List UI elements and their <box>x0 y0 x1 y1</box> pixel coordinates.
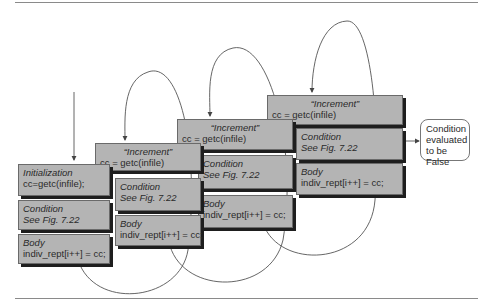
body-box-3: Body indiv_rept[i++] = cc; <box>198 195 293 228</box>
condition-ref: See Fig. 7.22 <box>203 169 288 180</box>
condition-ref: See Fig. 7.22 <box>23 214 105 225</box>
bottom-rule <box>15 298 478 299</box>
condition-box-3: Condition See Fig. 7.22 <box>198 155 293 189</box>
increment-title: “Increment” <box>272 98 398 109</box>
body-title: Body <box>120 218 196 229</box>
body-title: Body <box>301 166 398 177</box>
body-title: Body <box>203 198 288 209</box>
condition-box-2: Condition See Fig. 7.22 <box>115 178 201 211</box>
body-code: indiv_rept[i++] = cc; <box>203 209 288 220</box>
top-rule <box>15 2 478 3</box>
initialization-code: cc=getc(infile); <box>23 178 105 189</box>
condition-ref: See Fig. 7.22 <box>301 142 398 153</box>
body-box-1: Body indiv_rept[i++] = cc; <box>18 234 110 264</box>
condition-title: Condition <box>23 203 105 214</box>
condition-title: Condition <box>203 158 288 169</box>
body-code: indiv_rept[i++] = cc; <box>120 229 196 240</box>
body-code: indiv_rept[i++] = cc; <box>301 177 398 188</box>
body-title: Body <box>23 237 105 248</box>
body-box-4: Body indiv_rept[i++] = cc; <box>296 163 403 195</box>
body-box-2: Body indiv_rept[i++] = cc; <box>115 215 201 246</box>
initialization-title: Initialization <box>23 167 105 178</box>
increment-box-2: “Increment” cc = getc(infile) <box>95 143 201 171</box>
increment-title: “Increment” <box>182 122 288 133</box>
initialization-box: Initialization cc=getc(infile); <box>18 164 110 196</box>
condition-title: Condition <box>301 131 398 142</box>
exit-line-2: evaluated <box>426 134 464 145</box>
body-code: indiv_rept[i++] = cc; <box>23 248 105 259</box>
exit-condition-false: Condition evaluated to be False <box>420 119 470 161</box>
condition-box-1: Condition See Fig. 7.22 <box>18 200 110 230</box>
exit-line-1: Condition <box>426 123 464 134</box>
condition-box-4: Condition See Fig. 7.22 <box>296 128 403 160</box>
exit-line-3: to be False <box>426 145 464 167</box>
condition-title: Condition <box>120 181 196 192</box>
condition-ref: See Fig. 7.22 <box>120 192 196 203</box>
increment-title: “Increment” <box>100 146 196 157</box>
increment-code: cc = getc(infile) <box>100 157 196 168</box>
